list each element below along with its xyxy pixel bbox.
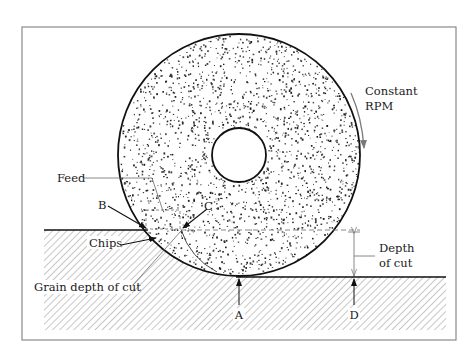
point-d-label: D [349,308,358,322]
wheel-hub-hole [212,128,266,182]
constant-rpm-label-line1: Constant [365,84,418,98]
point-b-label: B [98,198,106,212]
chips-label: Chips [89,236,122,250]
grinding-wheel [118,34,360,276]
grain-depth-of-cut-label: Grain depth of cut [34,280,141,294]
grinding-diagram: Constant RPM Feed B C Chips Grain depth … [0,0,470,357]
depth-of-cut-label-line1: Depth [379,241,415,255]
point-a-label: A [234,308,244,322]
feed-label: Feed [57,171,86,185]
depth-of-cut-label-line2: of cut [379,256,413,270]
point-c-label: C [204,199,213,213]
constant-rpm-label-line2: RPM [365,99,393,113]
